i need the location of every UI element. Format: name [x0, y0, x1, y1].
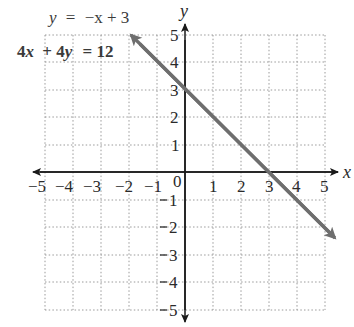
x-tick-3: 3 — [265, 177, 274, 196]
svg-text:4x + 4y = 12: 4x + 4y = 12 — [17, 42, 113, 61]
y-neg-tick-marks — [160, 200, 167, 310]
equation-label-1: y = −x + 3 — [47, 8, 129, 27]
y-tick-2: 2 — [170, 108, 179, 127]
x-tick-1: 1 — [209, 177, 218, 196]
origin-label: 0 — [173, 172, 182, 191]
x-tick--3: −3 — [83, 177, 101, 196]
y-tick--1: 1 — [169, 191, 178, 210]
y-tick-4: 4 — [170, 53, 179, 72]
y-axis-label: y — [178, 1, 188, 21]
x-tick-4: 4 — [292, 177, 301, 196]
coordinate-plane: y x 0 −5 −4 −3 −2 −1 1 2 3 4 5 1 2 3 4 5… — [0, 0, 354, 327]
y-tick-3: 3 — [170, 81, 179, 100]
svg-text:y = −x + 3: y = −x + 3 — [47, 8, 129, 27]
y-tick-1: 1 — [171, 136, 180, 155]
x-tick--5: −5 — [28, 177, 46, 196]
y-tick--4: 4 — [169, 273, 178, 292]
x-tick--2: −2 — [115, 177, 133, 196]
x-axis-label: x — [342, 162, 351, 182]
x-tick--4: −4 — [55, 177, 74, 196]
y-tick--3: 3 — [169, 246, 178, 265]
x-tick-5: 5 — [320, 177, 329, 196]
y-tick-5: 5 — [170, 26, 179, 45]
equation-label-2: 4x + 4y = 12 — [17, 42, 113, 61]
x-tick-2: 2 — [237, 177, 246, 196]
x-tick--1: −1 — [144, 177, 162, 196]
y-tick--2: 2 — [169, 218, 178, 237]
y-tick--5: 5 — [169, 301, 178, 320]
